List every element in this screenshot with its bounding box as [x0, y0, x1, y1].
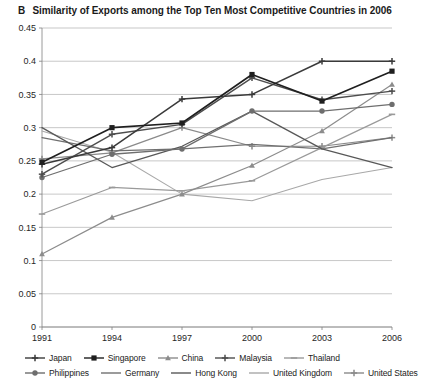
legend-label: China	[182, 353, 204, 363]
series-japan	[39, 58, 395, 167]
legend-marker-dash-icon	[283, 353, 305, 363]
legend-row: PhilippinesGermanyHong KongUnited Kingdo…	[0, 365, 425, 380]
legend-label: United Kingdom	[273, 368, 332, 378]
marker-cross	[32, 354, 38, 360]
marker-cross	[249, 91, 255, 97]
legend-item-philippines[interactable]: Philippines	[24, 368, 89, 378]
y-tick-label: 0.05	[18, 289, 36, 299]
y-tick-label: 0.35	[18, 90, 36, 100]
marker-circle	[319, 108, 324, 113]
marker-triangle	[39, 251, 45, 256]
legend-row: JapanSingaporeChinaMalaysiaThailand	[0, 350, 425, 365]
y-tick-label: 0.4	[23, 56, 36, 66]
legend-item-germany[interactable]: Germany	[100, 368, 159, 378]
series-line	[42, 131, 392, 201]
legend-marker-line-icon	[170, 368, 192, 378]
series-malaysia	[39, 75, 395, 178]
x-tick-label: 2000	[242, 333, 262, 343]
panel-letter: B	[18, 5, 25, 16]
y-tick-label: 0.45	[18, 23, 36, 33]
legend-marker-triangle-icon	[157, 353, 179, 363]
marker-circle	[389, 102, 394, 107]
marker-circle	[109, 152, 114, 157]
x-tick-label: 1991	[32, 333, 52, 343]
series-china	[39, 81, 395, 256]
legend-marker-cross-icon	[214, 353, 236, 363]
series-united-kingdom	[42, 131, 392, 201]
series-line	[42, 61, 392, 164]
x-tick-label: 1994	[102, 333, 122, 343]
marker-square	[389, 69, 394, 74]
legend-label: Germany	[125, 368, 159, 378]
marker-cross	[319, 58, 325, 64]
legend-item-hong-kong[interactable]: Hong Kong	[170, 368, 237, 378]
figure-panel-b: B Similarity of Exports among the Top Te…	[0, 0, 425, 388]
legend-label: Thailand	[308, 353, 340, 363]
marker-square	[91, 355, 96, 360]
legend-item-thailand[interactable]: Thailand	[283, 353, 340, 363]
legend-marker-circle-icon	[24, 368, 46, 378]
marker-cross	[109, 131, 115, 137]
legend-label: Malaysia	[239, 353, 272, 363]
y-tick-label: 0.2	[23, 189, 36, 199]
x-tick-label: 1997	[172, 333, 192, 343]
y-tick-label: 0.3	[23, 123, 36, 133]
legend-label: Philippines	[49, 368, 89, 378]
marker-triangle	[319, 128, 325, 133]
marker-cross	[389, 58, 395, 64]
marker-square	[319, 98, 324, 103]
marker-circle	[249, 108, 254, 113]
series-line	[42, 104, 392, 177]
legend-label: Singapore	[108, 353, 146, 363]
marker-cross	[389, 88, 395, 94]
marker-square	[179, 120, 184, 125]
y-tick-label: 0.1	[23, 256, 36, 266]
legend-item-united-kingdom[interactable]: United Kingdom	[248, 368, 332, 378]
marker-cross	[351, 369, 357, 375]
legend-marker-line-icon	[100, 368, 122, 378]
legend-item-china[interactable]: China	[157, 353, 204, 363]
marker-cross	[222, 354, 228, 360]
legend-marker-cross-icon	[24, 353, 46, 363]
x-tick-label: 2006	[382, 333, 402, 343]
y-tick-label: 0.25	[18, 156, 36, 166]
y-tick-label: 0.15	[18, 223, 36, 233]
marker-circle	[179, 146, 184, 151]
series-line	[42, 71, 392, 162]
legend-item-japan[interactable]: Japan	[24, 353, 72, 363]
marker-square	[109, 125, 114, 130]
legend-marker-line-icon	[248, 368, 270, 378]
legend-item-singapore[interactable]: Singapore	[83, 353, 146, 363]
legend-marker-cross-icon	[343, 368, 365, 378]
marker-square	[249, 72, 254, 77]
marker-triangle	[389, 81, 395, 86]
legend-label: Hong Kong	[195, 368, 237, 378]
page-title: Similarity of Exports among the Top Ten …	[32, 5, 391, 16]
y-tick-label: 0	[31, 322, 36, 332]
chart-title-row: B Similarity of Exports among the Top Te…	[0, 2, 425, 18]
series-singapore	[39, 69, 394, 165]
marker-square	[39, 160, 44, 165]
legend-item-united-states[interactable]: United States	[343, 368, 418, 378]
chart-legend: JapanSingaporeChinaMalaysiaThailandPhili…	[0, 350, 425, 380]
legend-marker-square-icon	[83, 353, 105, 363]
marker-circle	[32, 370, 37, 375]
series-philippines	[39, 102, 394, 180]
x-tick-label: 2003	[312, 333, 332, 343]
legend-label: Japan	[49, 353, 72, 363]
legend-label: United States	[368, 368, 418, 378]
line-chart: 00.050.10.150.20.250.30.350.40.451991199…	[0, 18, 425, 350]
legend-item-malaysia[interactable]: Malaysia	[214, 353, 272, 363]
